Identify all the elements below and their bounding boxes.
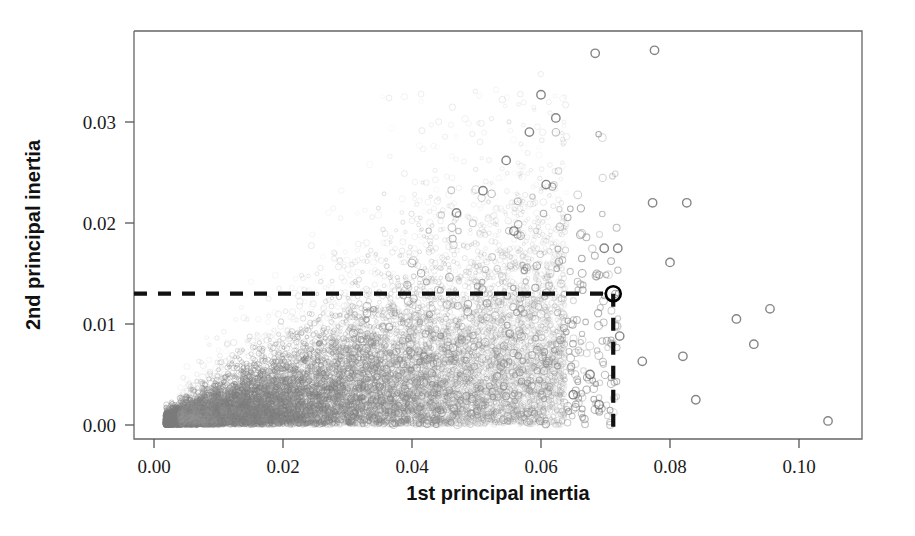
y-tick-label: 0.02 <box>83 213 116 234</box>
x-tick-label: 0.10 <box>782 456 815 477</box>
plot-canvas: 0.000.020.040.060.080.10 0.000.010.020.0… <box>0 0 915 536</box>
y-axis-title: 2nd principal inertia <box>22 139 44 330</box>
y-tick-label: 0.01 <box>83 314 116 335</box>
x-tick-label: 0.04 <box>395 456 429 477</box>
x-tick-label: 0.08 <box>653 456 686 477</box>
x-tick-label: 0.00 <box>137 456 170 477</box>
scatter-plot-figure: 0.000.020.040.060.080.10 0.000.010.020.0… <box>0 0 915 536</box>
x-tick-label: 0.06 <box>524 456 557 477</box>
y-tick-label: 0.03 <box>83 112 116 133</box>
x-tick-label: 0.02 <box>266 456 299 477</box>
x-axis-title: 1st principal inertia <box>406 482 590 504</box>
y-tick-label: 0.00 <box>83 415 116 436</box>
